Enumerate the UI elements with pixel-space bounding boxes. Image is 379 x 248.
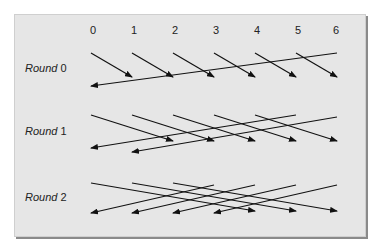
round-1-arrows: [91, 115, 337, 152]
arrow-6-to-1: [132, 117, 337, 152]
arrow-2-to-3: [173, 53, 214, 77]
round-2-arrows: [91, 183, 337, 213]
arrow-5-to-6: [296, 53, 337, 77]
arrow-4-to-5: [255, 53, 296, 77]
arrow-1-to-2: [132, 53, 173, 77]
arrow-6-to-0: [91, 53, 337, 86]
arrow-layer: [0, 0, 379, 248]
round-0-arrows: [91, 53, 337, 86]
arrow-0-to-1: [91, 53, 132, 77]
arrow-1-to-3: [132, 115, 214, 141]
arrow-3-to-5: [214, 115, 296, 141]
